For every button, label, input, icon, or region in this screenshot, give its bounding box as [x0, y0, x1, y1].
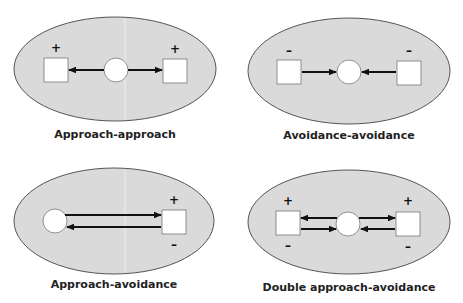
- valence-right-bottom: –: [405, 240, 411, 254]
- valence-left-top: –: [286, 44, 292, 58]
- goal-box-right: [397, 61, 421, 85]
- valence-bottom: –: [171, 238, 177, 252]
- panel-approach-approach: + + Approach-approach: [14, 17, 216, 141]
- panel-approach-avoidance: + – Approach-avoidance: [14, 168, 214, 291]
- panel-label: Double approach-avoidance: [263, 281, 436, 294]
- goal-box-right: [163, 59, 187, 83]
- person-node: [104, 58, 128, 82]
- goal-box: [162, 210, 186, 234]
- valence-left-top: +: [283, 194, 293, 208]
- panel-label: Approach-approach: [54, 128, 176, 141]
- panel-avoidance-avoidance: – – Avoidance-avoidance: [248, 18, 450, 142]
- valence-left-top: +: [51, 41, 61, 55]
- person-node: [337, 60, 361, 84]
- panel-double-approach-avoidance: + – + – Double approach-avoidance: [248, 170, 450, 294]
- goal-box-left: [276, 211, 300, 235]
- person-node: [43, 209, 67, 233]
- conflict-types-diagram: + + Approach-approach – – Avoidance-avoi…: [0, 0, 463, 303]
- goal-box-left: [44, 58, 68, 82]
- valence-right-top: –: [406, 44, 412, 58]
- goal-box-right: [396, 212, 420, 236]
- panel-label: Avoidance-avoidance: [283, 129, 414, 142]
- valence-right-top: +: [403, 194, 413, 208]
- valence-left-bottom: –: [285, 239, 291, 253]
- person-node: [336, 212, 360, 236]
- goal-box-left: [277, 60, 301, 84]
- valence-right-top: +: [170, 42, 180, 56]
- valence-top: +: [169, 193, 179, 207]
- panel-label: Approach-avoidance: [51, 278, 178, 291]
